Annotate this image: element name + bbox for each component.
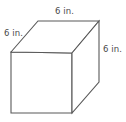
top-edge-dimension-label: 6 in.: [55, 6, 74, 16]
cube-drawing: [0, 0, 126, 122]
cube-front-face: [11, 52, 72, 113]
left-edge-dimension-label: 6 in.: [4, 28, 23, 38]
right-edge-dimension-label: 6 in.: [103, 44, 122, 54]
cube-figure: 6 in. 6 in. 6 in.: [0, 0, 126, 122]
